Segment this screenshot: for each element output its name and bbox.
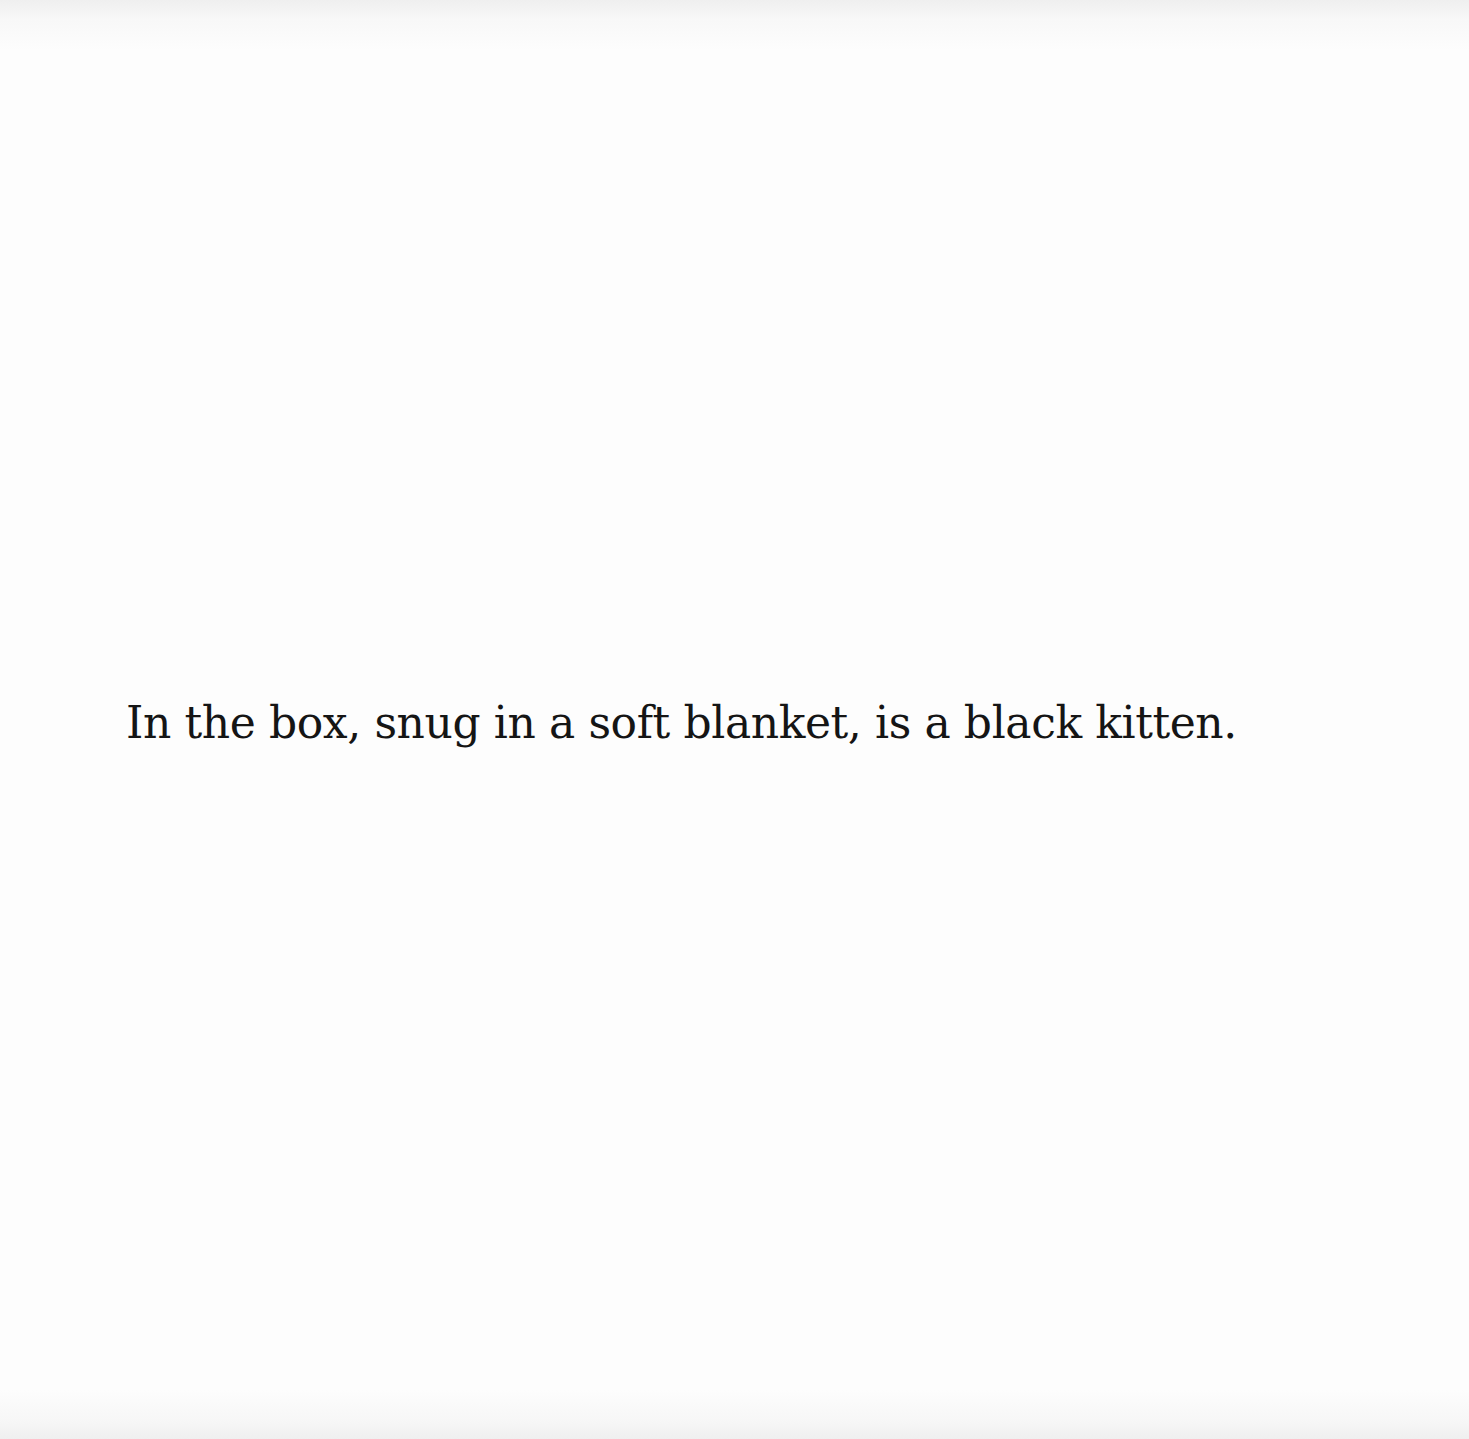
- story-text: In the box, snug in a soft blanket, is a…: [126, 690, 1237, 756]
- book-page: In the box, snug in a soft blanket, is a…: [0, 0, 1469, 1439]
